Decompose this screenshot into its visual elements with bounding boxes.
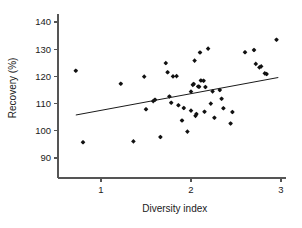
data-point	[221, 106, 226, 111]
data-point	[81, 140, 86, 145]
data-point	[74, 68, 79, 73]
data-point	[185, 129, 190, 134]
data-point	[202, 109, 207, 114]
data-point	[228, 121, 233, 126]
data-point	[165, 70, 170, 75]
y-tick-label: 110	[36, 98, 51, 109]
y-axis-title: Recovery (%)	[7, 58, 18, 119]
data-point	[169, 100, 174, 105]
axes-group	[58, 14, 286, 178]
data-point	[176, 103, 181, 108]
data-point	[174, 74, 179, 79]
x-tick-label: 2	[188, 184, 193, 195]
data-point	[131, 139, 136, 144]
data-point	[164, 61, 169, 66]
data-point	[201, 78, 206, 83]
data-point	[252, 48, 257, 53]
regression-line	[76, 77, 278, 115]
plot-canvas: 90100110120130140 123 Diversity index Re…	[0, 0, 302, 228]
x-tick-label: 3	[278, 184, 283, 195]
scatter-plot-figure: 90100110120130140 123 Diversity index Re…	[0, 0, 302, 228]
data-point	[198, 50, 203, 55]
x-axis-ticks: 123	[98, 178, 283, 195]
data-point	[180, 118, 185, 123]
y-axis-ticks: 90100110120130140	[35, 16, 58, 163]
data-point	[219, 96, 224, 101]
y-tick-label: 120	[35, 71, 51, 82]
data-point	[209, 101, 214, 106]
y-tick-label: 130	[35, 44, 51, 55]
y-tick-label: 140	[35, 16, 51, 27]
y-tick-label: 90	[40, 152, 51, 163]
y-tick-label: 100	[35, 125, 51, 136]
data-point	[243, 50, 248, 55]
data-point	[158, 135, 163, 140]
data-point	[189, 108, 194, 113]
data-point	[192, 58, 197, 63]
data-point	[142, 74, 147, 79]
data-point	[212, 115, 217, 120]
data-point	[254, 62, 259, 67]
data-points-group	[74, 37, 279, 144]
data-point	[203, 85, 208, 90]
x-axis-title: Diversity index	[142, 203, 207, 214]
data-point	[119, 81, 124, 86]
data-point	[206, 46, 211, 51]
data-point	[144, 107, 149, 112]
data-point	[182, 106, 187, 111]
data-point	[230, 110, 235, 115]
data-point	[274, 37, 279, 42]
x-tick-label: 1	[98, 184, 103, 195]
